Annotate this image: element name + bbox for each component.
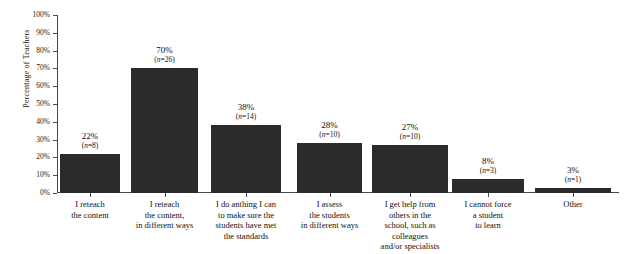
bar-count: (n=10)	[285, 130, 375, 139]
y-tick-mark	[53, 175, 57, 176]
category-label-line: the students	[286, 210, 373, 221]
category-label-line: I reteach	[49, 199, 131, 210]
bar-percent: 27%	[365, 122, 455, 132]
bar-count: (n=14)	[201, 112, 291, 121]
bar-percent: 28%	[285, 120, 375, 130]
bar-count: (n=26)	[120, 55, 210, 64]
y-tick-label: 50%	[36, 99, 50, 108]
y-tick-mark	[53, 51, 57, 52]
bar-percent: 8%	[443, 156, 533, 166]
category-label-line: and/or specialists	[361, 241, 459, 252]
bar-chart: Percentage of Teachers 100%90%80%70%60%5…	[0, 0, 628, 254]
y-tick-mark	[53, 68, 57, 69]
bar-percent: 22%	[45, 131, 135, 141]
y-tick-label: 70%	[36, 63, 50, 72]
y-tick-mark	[53, 15, 57, 16]
category-label-line: Other	[524, 199, 622, 210]
bar	[372, 145, 448, 193]
category-label-line: I reteach	[120, 199, 209, 210]
category-label: I cannot forcea studentto learn	[441, 199, 535, 231]
y-tick-mark	[53, 33, 57, 34]
category-label: I reteachthe content,in different ways	[120, 199, 209, 231]
bar-percent: 70%	[120, 45, 210, 55]
y-tick-label: 0%	[40, 188, 50, 197]
bar	[452, 179, 524, 193]
bar	[131, 68, 198, 193]
x-tick-mark	[488, 193, 489, 197]
plot-area: 100%90%80%70%60%50%40%30%20%10%0% 22%(n=…	[57, 15, 619, 193]
y-tick-label: 40%	[36, 117, 50, 126]
y-tick-label: 90%	[36, 28, 50, 37]
y-axis-title: Percentage of Teachers	[22, 0, 31, 139]
category-label-line: the content	[49, 210, 131, 221]
x-tick-mark	[330, 193, 331, 197]
bar-value-label: 38%(n=14)	[201, 102, 291, 121]
category-label-line: students have met	[200, 220, 292, 231]
bar-percent: 3%	[528, 165, 618, 175]
category-label: I do anthing I canto make sure thestuden…	[200, 199, 292, 241]
bar-value-label: 70%(n=26)	[120, 45, 210, 64]
category-label-line: the content,	[120, 210, 209, 221]
category-label-line: I cannot force	[441, 199, 535, 210]
category-label: I reteachthe content	[49, 199, 131, 220]
bar-value-label: 8%(n=3)	[443, 156, 533, 175]
category-label-line: a student	[441, 210, 535, 221]
category-label-line: to learn	[441, 220, 535, 231]
y-tick-label: 10%	[36, 170, 50, 179]
category-label: I assessthe studentsin different ways	[286, 199, 373, 231]
y-tick-label: 100%	[33, 10, 51, 19]
bar-count: (n=3)	[443, 166, 533, 175]
y-tick-mark	[53, 86, 57, 87]
category-label-line: I assess	[286, 199, 373, 210]
bar-value-label: 3%(n=1)	[528, 165, 618, 184]
bar-value-label: 22%(n=8)	[45, 131, 135, 150]
category-label-line: to make sure the	[200, 210, 292, 221]
y-tick-mark	[53, 193, 57, 194]
y-tick-mark	[53, 104, 57, 105]
y-tick-mark	[53, 157, 57, 158]
x-tick-mark	[90, 193, 91, 197]
bar-value-label: 28%(n=10)	[285, 120, 375, 139]
bar-count: (n=10)	[365, 132, 455, 141]
x-tick-mark	[246, 193, 247, 197]
bar-percent: 38%	[201, 102, 291, 112]
bar-count: (n=1)	[528, 175, 618, 184]
y-tick-label: 60%	[36, 81, 50, 90]
x-tick-mark	[165, 193, 166, 197]
bar	[211, 125, 281, 193]
bar-value-label: 27%(n=10)	[365, 122, 455, 141]
bar	[297, 143, 362, 193]
x-tick-mark	[573, 193, 574, 197]
y-axis-line	[57, 15, 58, 193]
category-label-line: in different ways	[286, 220, 373, 231]
category-label-line: colleagues	[361, 231, 459, 242]
bar-count: (n=8)	[45, 141, 135, 150]
x-tick-mark	[410, 193, 411, 197]
y-tick-label: 80%	[36, 46, 50, 55]
bar	[60, 154, 120, 193]
category-label-line: in different ways	[120, 220, 209, 231]
category-label-line: I do anthing I can	[200, 199, 292, 210]
y-tick-mark	[53, 122, 57, 123]
y-tick-label: 20%	[36, 152, 50, 161]
category-label: Other	[524, 199, 622, 210]
category-label-line: the standards	[200, 231, 292, 242]
